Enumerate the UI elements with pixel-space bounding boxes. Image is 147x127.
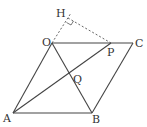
segment-AP <box>13 43 111 113</box>
label-Q: Q <box>73 73 82 86</box>
label-O: O <box>42 36 51 49</box>
segment-OA <box>13 43 52 113</box>
label-A: A <box>2 112 12 125</box>
label-B: B <box>92 113 100 126</box>
label-C: C <box>135 37 143 50</box>
label-P: P <box>107 46 115 59</box>
geometry-diagram: H O P C Q A B <box>0 0 147 127</box>
segment-OB <box>52 43 92 113</box>
label-H: H <box>56 7 66 20</box>
dashed-HP <box>68 18 111 43</box>
right-angle-mark <box>67 21 74 25</box>
